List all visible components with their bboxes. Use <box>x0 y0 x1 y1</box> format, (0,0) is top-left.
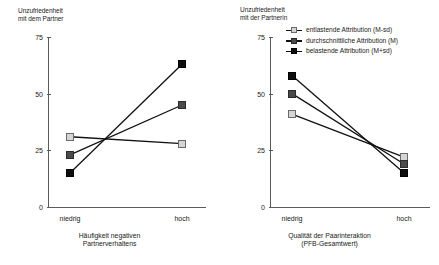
y-tick-label-50-left: 50 <box>35 90 43 97</box>
y-axis-label-left: Unzufriedenheit mit dem Partner <box>18 7 64 22</box>
y-tick-0-left <box>47 207 51 208</box>
series-line-dark <box>292 76 404 173</box>
x-axis-caption-right: Qualität der Paarinteraktion (PFB-Gesamt… <box>220 232 439 249</box>
series-line-light <box>292 114 404 157</box>
x-axis-caption-left: Häufigkeit negativen Partnerverhaltens <box>0 232 219 249</box>
data-point-light-niedrig <box>66 133 74 141</box>
x-tick-label-hoch-right: hoch <box>396 215 411 223</box>
y-axis-label-right: Unzufriedenheit mit der Partnerin <box>240 6 287 21</box>
y-tick-label-25-right: 25 <box>257 147 265 154</box>
data-point-mid-hoch <box>178 101 186 109</box>
data-point-light-hoch <box>178 140 186 148</box>
data-point-mid-niedrig <box>66 151 74 159</box>
data-point-mid-hoch <box>400 160 408 168</box>
legend-label-entlastende: entlastende Attribution (M-sd) <box>306 25 392 36</box>
x-tick-label-niedrig-right: niedrig <box>281 215 302 223</box>
series-line-mid <box>70 105 182 155</box>
data-point-dark-hoch <box>400 169 408 177</box>
series-line-dark <box>70 64 182 173</box>
y-tick-label-75-right: 75 <box>257 34 265 41</box>
series-lines-right <box>270 37 428 207</box>
chart-panel-left: Unzufriedenheit mit dem Partner 75 50 25… <box>0 0 219 265</box>
plot-area-left: 75 50 25 0 niedrig hoch <box>48 37 206 207</box>
figure-two-panel-line-charts: Unzufriedenheit mit dem Partner 75 50 25… <box>0 0 439 265</box>
plot-area-right: 75 50 25 0 niedrig hoch <box>270 37 428 207</box>
series-line-mid <box>292 94 404 164</box>
y-tick-label-0-right: 0 <box>261 204 265 211</box>
legend-entry-entlastende: entlastende Attribution (M-sd) <box>286 25 398 36</box>
x-tick-label-hoch-left: hoch <box>174 215 189 223</box>
legend-marker-light-square-icon <box>286 26 302 35</box>
data-point-dark-hoch <box>178 60 186 68</box>
x-axis-line-right <box>270 207 430 208</box>
series-line-light <box>70 137 182 144</box>
chart-panel-right: Unzufriedenheit mit der Partnerin entlas… <box>220 0 439 265</box>
x-axis-line-left <box>48 207 206 208</box>
x-tick-label-niedrig-left: niedrig <box>59 215 80 223</box>
y-tick-label-25-left: 25 <box>35 147 43 154</box>
y-tick-label-50-right: 50 <box>257 90 265 97</box>
data-point-dark-niedrig <box>66 169 74 177</box>
y-tick-label-0-left: 0 <box>39 204 43 211</box>
y-tick-label-75-left: 75 <box>35 34 43 41</box>
y-tick-0-right <box>269 207 273 208</box>
data-point-dark-niedrig <box>288 72 296 80</box>
data-point-light-niedrig <box>288 110 296 118</box>
data-point-mid-niedrig <box>288 90 296 98</box>
